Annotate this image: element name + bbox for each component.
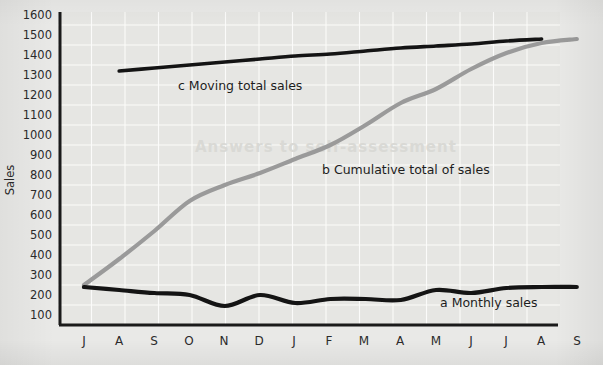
y-axis-tick-labels: 1600 1500 1400 1300 1200 1100 1000 900 8… — [23, 8, 52, 322]
y-axis-title: Sales — [3, 165, 17, 196]
y-tick-1100: 1100 — [23, 108, 52, 122]
series-label-cumulative-total: b Cumulative total of sales — [322, 162, 490, 177]
y-tick-200: 200 — [30, 288, 52, 302]
x-tick-14: S — [573, 334, 581, 348]
y-tick-1400: 1400 — [23, 48, 52, 62]
x-tick-5: D — [254, 334, 263, 348]
y-tick-900: 900 — [30, 148, 52, 162]
y-tick-600: 600 — [30, 208, 52, 222]
series-label-monthly-sales: a Monthly sales — [440, 295, 538, 310]
x-tick-12: J — [503, 334, 508, 348]
y-tick-300: 300 — [30, 268, 52, 282]
y-tick-1000: 1000 — [23, 128, 52, 142]
series-label-moving-total: c Moving total sales — [178, 78, 302, 93]
y-tick-400: 400 — [30, 248, 52, 262]
y-tick-1300: 1300 — [23, 68, 52, 82]
x-tick-2: S — [150, 334, 158, 348]
x-tick-0: J — [81, 334, 86, 348]
y-tick-800: 800 — [30, 168, 52, 182]
x-tick-6: J — [291, 334, 296, 348]
x-tick-4: N — [220, 334, 229, 348]
x-tick-7: F — [326, 334, 333, 348]
y-tick-1200: 1200 — [23, 88, 52, 102]
x-tick-13: A — [537, 334, 546, 348]
y-tick-1500: 1500 — [23, 28, 52, 42]
chart-page: Answers to self-assessment 1600 1500 140… — [0, 0, 603, 365]
sales-line-chart: Answers to self-assessment 1600 1500 140… — [0, 0, 603, 365]
y-tick-100: 100 — [30, 308, 52, 322]
y-tick-500: 500 — [30, 228, 52, 242]
x-tick-8: M — [359, 334, 369, 348]
x-tick-9: A — [396, 334, 405, 348]
x-axis-tick-labels: J A S O N D J F M A M J J A S — [81, 334, 581, 348]
x-tick-3: O — [184, 334, 193, 348]
x-tick-1: A — [115, 334, 124, 348]
x-tick-10: M — [431, 334, 441, 348]
y-tick-1600: 1600 — [23, 8, 52, 22]
x-tick-11: J — [468, 334, 473, 348]
y-tick-700: 700 — [30, 188, 52, 202]
